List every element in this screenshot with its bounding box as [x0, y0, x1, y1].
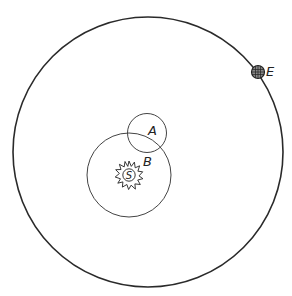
sun-icon: S: [115, 161, 143, 190]
earth-icon: [252, 66, 265, 79]
label-b: B: [143, 154, 152, 169]
sun-label: S: [126, 170, 133, 181]
orbital-diagram: S A B E: [0, 0, 292, 296]
label-a: A: [147, 123, 157, 138]
label-e: E: [266, 64, 275, 79]
